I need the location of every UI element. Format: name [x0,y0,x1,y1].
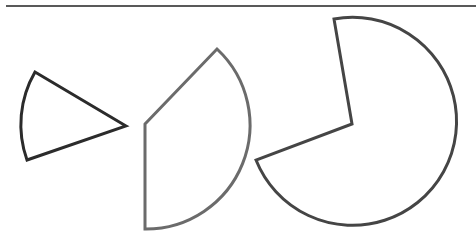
diagram-canvas [0,0,476,250]
sector-shape-large-right [256,17,457,225]
sector-shape-half-middle [145,49,250,229]
sector-shape-small-left [21,72,126,160]
sectors-diagram [0,0,476,250]
